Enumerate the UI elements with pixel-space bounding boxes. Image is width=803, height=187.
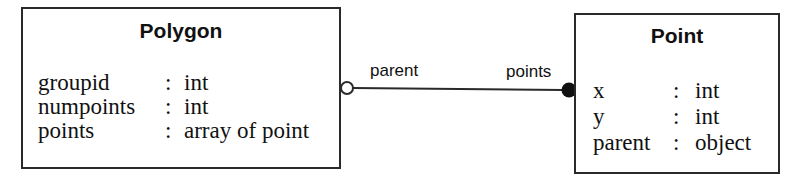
class-box-point: Point x : int y : int parent : object (574, 13, 780, 174)
attribute-name: y (593, 105, 605, 129)
attribute-row: x : int (593, 79, 778, 103)
attribute-row: y : int (593, 105, 778, 129)
attribute-row: parent : object (593, 131, 778, 155)
attribute-separator: : (673, 105, 679, 129)
attribute-name: x (593, 79, 605, 103)
class-title-polygon: Polygon (23, 19, 339, 43)
attribute-type: int (695, 105, 719, 129)
role-label-parent: parent (370, 61, 418, 81)
attribute-separator: : (165, 71, 171, 95)
attribute-separator: : (673, 131, 679, 155)
attribute-type: int (184, 95, 208, 119)
attribute-separator: : (673, 79, 679, 103)
attribute-name: numpoints (38, 95, 135, 119)
open-circle-icon (341, 82, 353, 94)
attribute-row: numpoints : int (38, 95, 338, 119)
attribute-type: int (695, 79, 719, 103)
association-line (353, 88, 563, 90)
attribute-name: points (38, 119, 94, 143)
attribute-type: array of point (184, 119, 309, 143)
attribute-type: object (695, 131, 751, 155)
class-title-point: Point (576, 24, 778, 48)
attribute-separator: : (165, 119, 171, 143)
diagram-canvas: Polygon groupid : int numpoints : int po… (0, 0, 803, 187)
attribute-separator: : (165, 95, 171, 119)
attribute-row: points : array of point (38, 119, 338, 143)
attribute-name: parent (593, 131, 650, 155)
role-label-points: points (506, 62, 551, 82)
attribute-type: int (184, 71, 208, 95)
attribute-row: groupid : int (38, 71, 338, 95)
class-box-polygon: Polygon groupid : int numpoints : int po… (21, 7, 341, 169)
attribute-name: groupid (38, 71, 110, 95)
